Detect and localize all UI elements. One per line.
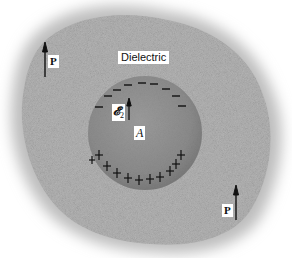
cavity-field-label: 𝓔2 (112, 104, 125, 121)
field-subscript: 2 (120, 111, 124, 120)
cavity-label: A (134, 126, 145, 140)
diagram-canvas: Dielectric P P A 𝓔2 (0, 0, 292, 258)
field-symbol: 𝓔 (113, 104, 120, 118)
polarization-label-upper: P (48, 55, 59, 68)
polarization-label-lower: P (222, 204, 233, 217)
dielectric-label: Dielectric (118, 51, 169, 64)
dielectric-figure (0, 0, 292, 258)
